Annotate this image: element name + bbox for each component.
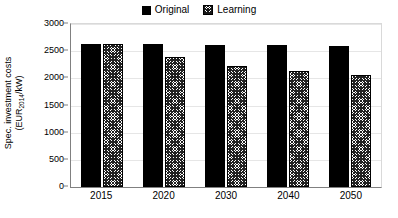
y-axis-title-unit-suffix: /kW) [14, 76, 24, 95]
bar-learning-2015[interactable] [103, 44, 123, 187]
bar-original-2020[interactable] [143, 44, 163, 187]
bar-original-2030[interactable] [205, 45, 225, 187]
bar-original-2050[interactable] [329, 46, 349, 187]
plot-area [70, 23, 382, 188]
bar-group [319, 24, 381, 187]
y-axis-title-unit-subscript: 2014 [18, 94, 25, 108]
bar-learning-2020[interactable] [165, 57, 185, 187]
bar-learning-2050[interactable] [351, 75, 371, 187]
bar-group [71, 24, 133, 187]
bar-original-2040[interactable] [267, 45, 287, 187]
y-axis-tick-label: 2000 [44, 73, 64, 82]
solid-black-square-icon [142, 6, 151, 15]
y-axis-title: Spec. investment costs (EUR2014/kW) [0, 18, 28, 188]
bar-learning-2040[interactable] [289, 71, 309, 187]
y-axis-tick-label: 2500 [44, 46, 64, 55]
y-axis-tick-mark [64, 186, 68, 187]
x-axis-ticks: 20152020203020402050 [70, 190, 382, 202]
y-axis-title-unit-prefix: (EUR [14, 108, 24, 130]
x-axis-tick-label: 2030 [195, 190, 257, 202]
y-axis-tick-mark [64, 23, 68, 24]
x-axis-tick-label: 2015 [70, 190, 132, 202]
y-axis-tick-mark [64, 131, 68, 132]
bar-learning-2030[interactable] [227, 66, 247, 187]
y-axis-tick-mark [64, 158, 68, 159]
y-axis-tick-label: 500 [49, 154, 64, 163]
y-axis-tick-mark [64, 50, 68, 51]
y-axis-tick-label: 3000 [44, 19, 64, 28]
y-axis-tick-mark [64, 104, 68, 105]
bar-group [195, 24, 257, 187]
legend-label-original: Original [155, 5, 189, 15]
legend-item-learning[interactable]: Learning [203, 5, 256, 15]
y-axis-tick-label: 1500 [44, 100, 64, 109]
y-axis-title-line1: Spec. investment costs [3, 57, 14, 150]
x-axis-tick-label: 2040 [257, 190, 319, 202]
chart-figure: Original Learning Spec. investment costs… [0, 0, 398, 218]
y-axis-tick-mark [64, 77, 68, 78]
bar-groups [71, 24, 381, 187]
bar-original-2015[interactable] [81, 44, 101, 187]
chart-legend: Original Learning [0, 2, 398, 18]
y-axis-title-line2: (EUR2014/kW) [14, 57, 25, 150]
x-axis-tick-label: 2050 [320, 190, 382, 202]
y-axis-tick-label: 1000 [44, 127, 64, 136]
bar-group [133, 24, 195, 187]
legend-label-learning: Learning [217, 5, 256, 15]
hatched-square-icon [203, 5, 213, 15]
bar-group [257, 24, 319, 187]
legend-item-original[interactable]: Original [142, 5, 189, 15]
x-axis-tick-label: 2020 [132, 190, 194, 202]
y-axis-ticks: 050010001500200025003000 [26, 18, 68, 188]
